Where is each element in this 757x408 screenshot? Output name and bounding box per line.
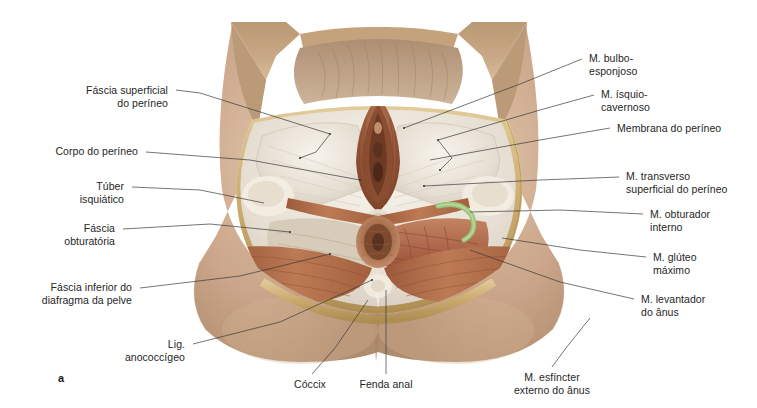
label-tuber-isquiatico: Túber isquiático bbox=[80, 180, 124, 205]
label-fascia-superficial-do-perineo: Fáscia superficial do períneo bbox=[86, 84, 168, 109]
label-m-transverso-superficial-do-perineo: M. transverso superficial do períneo bbox=[626, 170, 728, 195]
label-m-esfincter-externo-do-anus: M. esfíncter externo do ânus bbox=[514, 371, 590, 396]
label-m-obturador-interno: M. obturador interno bbox=[650, 208, 710, 233]
label-coccix: Cóccix bbox=[294, 378, 326, 391]
label-lig-anococcigeo: Lig. anococcígeo bbox=[125, 338, 185, 363]
label-m-levantador-do-anus: M. levantador do ânus bbox=[641, 293, 705, 318]
label-corpo-do-perineo: Corpo do períneo bbox=[55, 145, 138, 158]
label-m-bulbo-esponjoso: M. bulbo- esponjoso bbox=[589, 52, 637, 77]
label-fascia-inferior-do-diafragma-da-pelve: Fáscia inferior do diafragma da pelve bbox=[42, 281, 132, 306]
mons-pubis-hair bbox=[294, 39, 463, 104]
label-m-isquio-cavernoso: M. ísquio- cavernoso bbox=[601, 88, 650, 113]
label-membrana-do-perineo: Membrana do períneo bbox=[617, 122, 721, 135]
label-m-gluteo-maximo: M. glúteo máximo bbox=[653, 251, 697, 276]
panel-letter: a bbox=[58, 372, 64, 384]
label-fenda-anal: Fenda anal bbox=[359, 378, 412, 391]
label-fascia-obturatoria: Fáscia obturatória bbox=[64, 222, 115, 247]
